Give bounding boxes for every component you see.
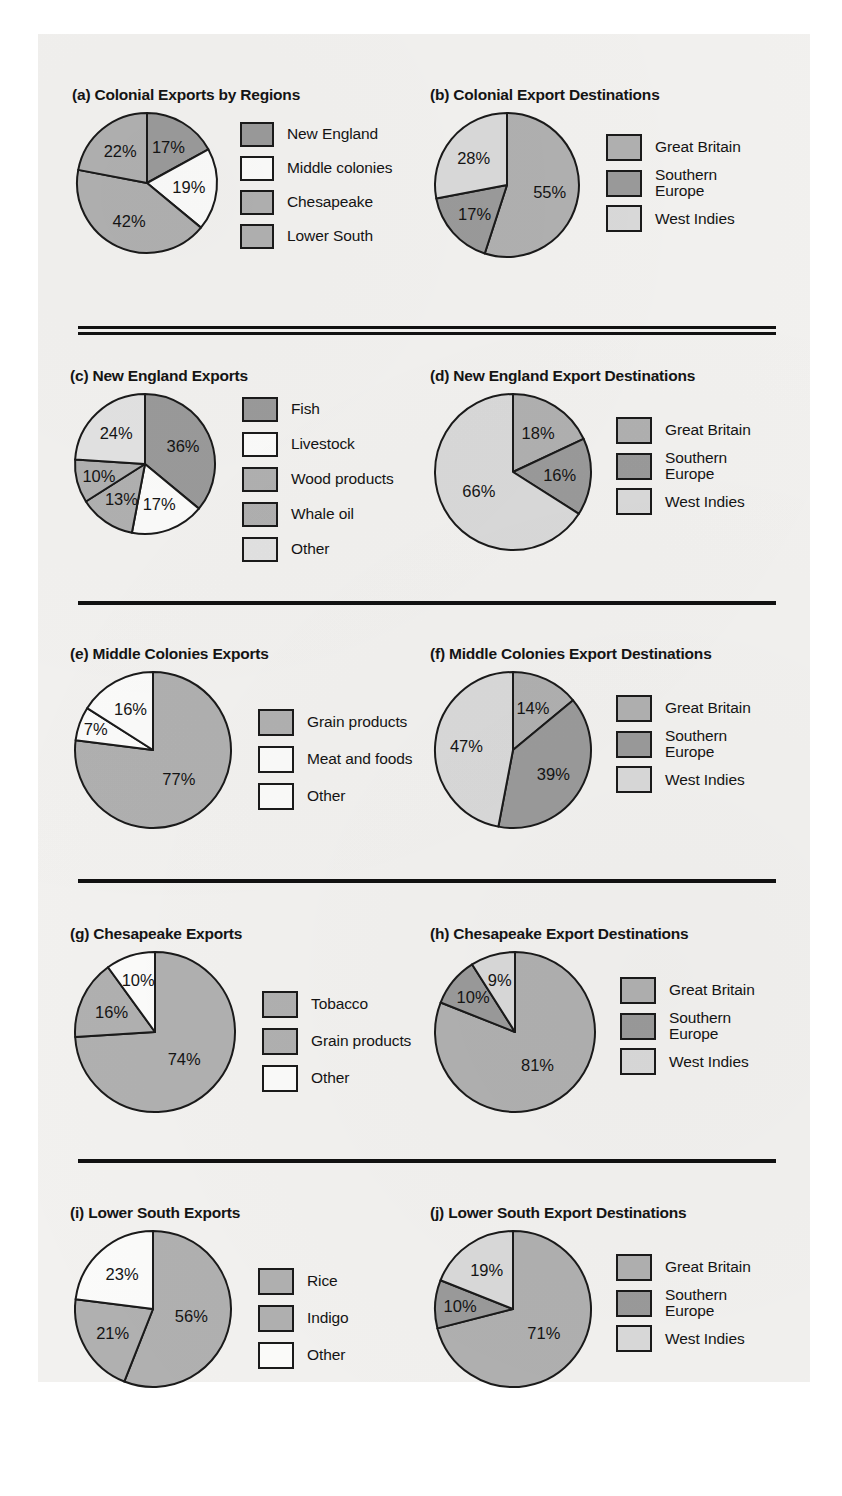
legend-swatch-icon (258, 709, 294, 736)
pie-wrap-c: 36%17%13%10%24% (70, 389, 220, 543)
legend-label: West Indies (665, 772, 745, 788)
legend-item[interactable]: Great Britain (616, 695, 751, 722)
legend-item[interactable]: West Indies (606, 205, 741, 232)
legend-swatch-icon (262, 1028, 298, 1055)
legend-item[interactable]: Southern Europe (620, 1010, 755, 1042)
pie-wrap-f: 14%39%47% (430, 667, 596, 837)
legend-item[interactable]: Other (242, 537, 394, 562)
pie-slice-label: 36% (166, 437, 199, 455)
legend-label: Middle colonies (287, 160, 392, 176)
legend-swatch-icon (242, 397, 278, 422)
chart-panel-j: (j) Lower South Export Destinations71%10… (430, 1204, 751, 1396)
legend-item[interactable]: Grain products (262, 1028, 411, 1055)
chart-panel-f: (f) Middle Colonies Export Destinations1… (430, 645, 751, 837)
pie-wrap-g: 74%16%10% (70, 947, 240, 1121)
pie-slice-label: 19% (470, 1261, 503, 1279)
pie-slice-label: 55% (533, 183, 566, 201)
legend-label: Fish (291, 401, 320, 417)
chart-body-b: 55%17%28%Great BritainSouthern EuropeWes… (430, 108, 741, 266)
pie-slice-label: 13% (105, 490, 138, 508)
pie-slice-label: 10% (82, 467, 115, 485)
legend-item[interactable]: Meat and foods (258, 746, 412, 773)
legend-item[interactable]: Other (258, 783, 412, 810)
legend-swatch-icon (620, 1013, 656, 1040)
legend-label: Grain products (311, 1033, 411, 1049)
legend-item[interactable]: Tobacco (262, 991, 411, 1018)
pie-slice-label: 23% (106, 1265, 139, 1283)
legend-swatch-icon (258, 1342, 294, 1369)
legend-item[interactable]: West Indies (616, 766, 751, 793)
legend-swatch-icon (240, 122, 274, 147)
legend-a: New EnglandMiddle coloniesChesapeakeLowe… (240, 122, 392, 249)
legend-item[interactable]: West Indies (616, 1325, 751, 1352)
legend-e: Grain productsMeat and foodsOther (258, 709, 412, 810)
legend-label: Great Britain (665, 422, 751, 438)
legend-item[interactable]: Fish (242, 397, 394, 422)
legend-label: West Indies (669, 1054, 749, 1070)
legend-item[interactable]: Southern Europe (616, 1287, 751, 1319)
legend-item[interactable]: Grain products (258, 709, 412, 736)
chart-body-f: 14%39%47%Great BritainSouthern EuropeWes… (430, 667, 751, 837)
pie-slice-label: 10% (444, 1297, 477, 1315)
legend-item[interactable]: Southern Europe (606, 167, 741, 199)
legend-label: Chesapeake (287, 194, 373, 210)
legend-item[interactable]: Other (262, 1065, 411, 1092)
legend-label: Southern Europe (669, 1010, 731, 1042)
legend-f: Great BritainSouthern EuropeWest Indies (616, 695, 751, 793)
legend-item[interactable]: Rice (258, 1268, 349, 1295)
pie-wrap-d: 18%16%66% (430, 389, 596, 559)
legend-item[interactable]: Whale oil (242, 502, 394, 527)
legend-g: TobaccoGrain productsOther (262, 991, 411, 1092)
chart-title-g: (g) Chesapeake Exports (70, 925, 411, 943)
chart-title-f: (f) Middle Colonies Export Destinations (430, 645, 751, 663)
legend-item[interactable]: Chesapeake (240, 190, 392, 215)
chart-panel-e: (e) Middle Colonies Exports77%7%16%Grain… (70, 645, 412, 837)
legend-item[interactable]: Southern Europe (616, 728, 751, 760)
pie-wrap-i: 56%21%23% (70, 1226, 236, 1396)
pie-slice-label: 9% (488, 971, 512, 989)
pie-chart-b: 55%17%28% (430, 108, 584, 262)
legend-item[interactable]: Other (258, 1342, 349, 1369)
legend-item[interactable]: Middle colonies (240, 156, 392, 181)
chart-title-c: (c) New England Exports (70, 367, 394, 385)
pie-slice-label: 81% (521, 1056, 554, 1074)
legend-swatch-icon (242, 502, 278, 527)
legend-swatch-icon (616, 488, 652, 515)
legend-label: Indigo (307, 1310, 349, 1326)
legend-item[interactable]: New England (240, 122, 392, 147)
legend-item[interactable]: Wood products (242, 467, 394, 492)
chart-panel-h: (h) Chesapeake Export Destinations81%10%… (430, 925, 755, 1121)
legend-label: Rice (307, 1273, 338, 1289)
legend-swatch-icon (240, 190, 274, 215)
legend-item[interactable]: Lower South (240, 224, 392, 249)
legend-swatch-icon (616, 731, 652, 758)
legend-item[interactable]: Great Britain (616, 1254, 751, 1281)
pie-slice-label: 28% (457, 149, 490, 167)
legend-label: Southern Europe (665, 1287, 727, 1319)
legend-item[interactable]: Southern Europe (616, 450, 751, 482)
legend-item[interactable]: West Indies (620, 1048, 755, 1075)
pie-slice-label: 74% (168, 1050, 201, 1068)
pie-wrap-b: 55%17%28% (430, 108, 584, 266)
chart-title-i: (i) Lower South Exports (70, 1204, 349, 1222)
pie-slice-label: 19% (172, 178, 205, 196)
pie-slice-label: 24% (100, 424, 133, 442)
legend-item[interactable]: Great Britain (620, 977, 755, 1004)
legend-swatch-icon (616, 417, 652, 444)
chart-body-h: 81%10%9%Great BritainSouthern EuropeWest… (430, 947, 755, 1121)
pie-wrap-j: 71%10%19% (430, 1226, 596, 1396)
chart-body-a: 17%19%42%22%New EnglandMiddle coloniesCh… (72, 108, 392, 262)
legend-label: Southern Europe (665, 728, 727, 760)
legend-item[interactable]: Great Britain (616, 417, 751, 444)
legend-item[interactable]: Great Britain (606, 134, 741, 161)
legend-item[interactable]: Indigo (258, 1305, 349, 1332)
pie-chart-i: 56%21%23% (70, 1226, 236, 1392)
legend-swatch-icon (616, 1325, 652, 1352)
chart-title-e: (e) Middle Colonies Exports (70, 645, 412, 663)
legend-item[interactable]: Livestock (242, 432, 394, 457)
chart-body-g: 74%16%10%TobaccoGrain productsOther (70, 947, 411, 1121)
chart-body-d: 18%16%66%Great BritainSouthern EuropeWes… (430, 389, 751, 559)
legend-label: New England (287, 126, 378, 142)
legend-item[interactable]: West Indies (616, 488, 751, 515)
pie-wrap-h: 81%10%9% (430, 947, 600, 1121)
